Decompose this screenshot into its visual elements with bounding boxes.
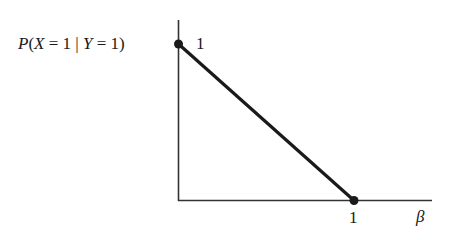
start-point <box>174 40 183 49</box>
x-axis-label: β <box>416 208 424 225</box>
diagram: P(X = 1 | Y = 1) 1 1 β <box>0 0 459 240</box>
y-tick-label: 1 <box>196 35 205 52</box>
y-axis-label: P(X = 1 | Y = 1) <box>18 35 125 52</box>
end-point <box>350 196 359 205</box>
x-tick-label: 1 <box>349 209 358 226</box>
trade-off-line <box>179 44 355 201</box>
